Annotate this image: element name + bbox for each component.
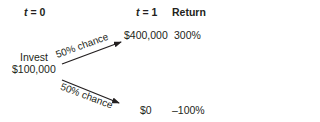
lower-outcome-return: –100% <box>172 104 205 116</box>
upper-outcome-value: $400,000 <box>124 29 168 41</box>
lower-outcome-value: $0 <box>140 104 152 116</box>
upper-outcome-return: 300% <box>174 29 201 41</box>
